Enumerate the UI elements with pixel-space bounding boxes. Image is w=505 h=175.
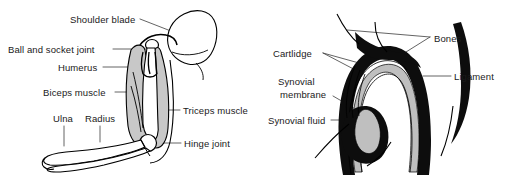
label-ligament: Ligament	[454, 71, 494, 82]
leader-bones-a	[347, 30, 430, 37]
label-biceps-muscle: Biceps muscle	[43, 87, 106, 98]
scapula-spine-line	[196, 63, 203, 80]
label-synovial-fluid: Synovial fluid	[268, 115, 325, 126]
label-ulna: Ulna	[53, 113, 73, 124]
label-cartlidge: Cartlidge	[273, 48, 312, 59]
label-radius: Radius	[85, 113, 115, 124]
synovial-joint-illustration	[255, 0, 505, 175]
label-triceps-muscle: Triceps muscle	[183, 105, 248, 116]
label-bones: Bones	[434, 33, 461, 44]
diagram-page: Shoulder blade Ball and socket joint Hum…	[0, 0, 505, 175]
label-synovial-membrane-line1: Synovial	[278, 76, 315, 87]
label-ball-and-socket-joint: Ball and socket joint	[8, 44, 95, 55]
label-humerus: Humerus	[58, 62, 97, 73]
label-synovial-membrane-line2: membrane	[280, 89, 326, 100]
scapula-shape	[168, 11, 217, 65]
label-shoulder-blade: Shoulder blade	[70, 14, 135, 25]
label-hinge-joint: Hinge joint	[184, 138, 230, 149]
upper-bone-contour-left	[337, 14, 359, 44]
synovial-joint-cross-section-diagram: Cartlidge Synovial membrane Synovial flu…	[255, 0, 505, 175]
right-bone-contour	[441, 106, 453, 156]
arm-shoulder-elbow-diagram: Shoulder blade Ball and socket joint Hum…	[0, 0, 255, 175]
leader-cartlidge-a	[323, 53, 359, 63]
